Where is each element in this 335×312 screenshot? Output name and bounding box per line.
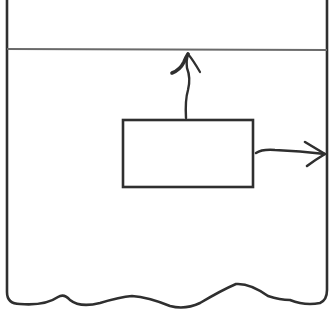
diagram-svg [0,0,335,312]
arrow-right-icon [256,142,325,166]
boundary-line [7,49,327,50]
diagram-canvas [0,0,335,312]
container-outline [7,0,327,307]
arrow-up-icon [172,54,200,118]
inner-box [123,120,253,187]
